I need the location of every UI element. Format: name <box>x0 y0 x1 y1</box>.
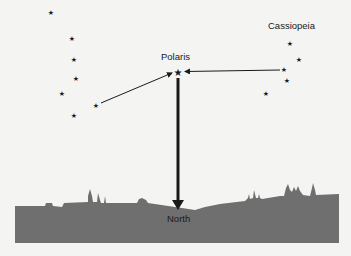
north-label: North <box>167 213 190 224</box>
big-dipper-star-icon: ★ <box>71 56 77 64</box>
cassiopeia-star-icon: ★ <box>296 56 302 64</box>
polaris-star-icon: ★ <box>174 67 183 78</box>
big-dipper-star-icon: ★ <box>71 112 77 120</box>
big-dipper-star-icon: ★ <box>73 75 79 83</box>
polaris-label: Polaris <box>161 51 190 62</box>
cassiopeia-pointer-arrow <box>185 70 280 72</box>
cassiopeia-star-icon: ★ <box>284 77 290 85</box>
big-dipper-star-icon: ★ <box>93 102 99 110</box>
cassiopeia-label: Cassiopeia <box>268 20 315 31</box>
big-dipper-star-icon: ★ <box>48 9 54 17</box>
big-dipper-pointer-arrow <box>101 73 172 103</box>
stars-layer: ★★★★★★★★★★★★★ <box>48 9 302 120</box>
cassiopeia-star-icon: ★ <box>287 40 293 48</box>
big-dipper-star-icon: ★ <box>59 90 65 98</box>
big-dipper-star-icon: ★ <box>69 35 75 43</box>
cassiopeia-star-icon: ★ <box>263 90 269 98</box>
cassiopeia-star-icon: ★ <box>281 66 287 74</box>
